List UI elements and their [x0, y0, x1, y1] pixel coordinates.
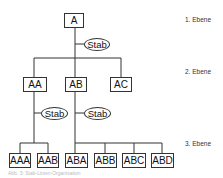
node-aab: AAB [37, 153, 59, 168]
level-label-2: 2. Ebene [185, 68, 211, 75]
node-abb: ABB [94, 153, 117, 168]
node-aa: AA [23, 77, 47, 92]
node-ab: AB [65, 77, 87, 92]
figure-caption: Abb. 3: Stab-Linien-Organisation [8, 170, 81, 176]
node-ac: AC [110, 77, 132, 92]
node-a: A [64, 13, 84, 28]
node-aba: ABA [65, 153, 88, 168]
node-abc: ABC [122, 153, 146, 168]
level-label-1: 1. Ebene [185, 16, 211, 23]
level-label-3: 3. Ebene [185, 140, 211, 147]
node-abd: ABD [151, 153, 174, 168]
node-aaa: AAA [9, 153, 31, 168]
staff-node-ab: Stab [84, 107, 111, 120]
staff-node-a: Stab [84, 38, 110, 51]
staff-node-aa: Stab [41, 107, 68, 120]
